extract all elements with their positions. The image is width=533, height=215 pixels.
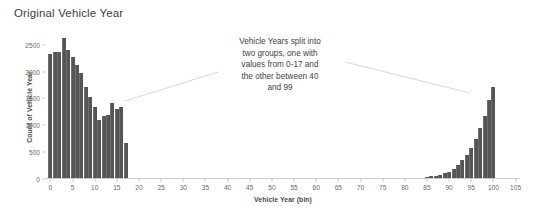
x-tick-label: 35 <box>202 184 209 191</box>
x-tick-mark <box>471 179 472 182</box>
x-tick-label: 85 <box>423 184 430 191</box>
y-tick-label: 1500 <box>25 95 40 102</box>
x-tick-mark <box>360 179 361 182</box>
x-tick-mark <box>515 179 516 182</box>
x-tick-mark <box>161 179 162 182</box>
x-tick-label: 100 <box>488 184 499 191</box>
y-tick-mark <box>42 179 45 180</box>
x-tick-mark <box>493 179 494 182</box>
x-tick-mark <box>294 179 295 182</box>
x-tick-label: 30 <box>180 184 187 191</box>
y-tick-mark <box>42 125 45 126</box>
histogram-chart: Original Vehicle Year Count of Vehicle Y… <box>0 0 533 215</box>
x-tick-label: 105 <box>510 184 521 191</box>
x-tick-mark <box>72 179 73 182</box>
x-axis: Vehicle Year (bin) 051015202530354045505… <box>46 179 520 215</box>
x-tick-label: 75 <box>379 184 386 191</box>
y-tick-label: 500 <box>29 149 40 156</box>
annotation-line: two groups, one with <box>214 48 346 60</box>
x-axis-title: Vehicle Year (bin) <box>46 196 520 203</box>
y-tick-label: 2000 <box>25 68 40 75</box>
x-tick-label: 60 <box>313 184 320 191</box>
x-tick-mark <box>249 179 250 182</box>
x-tick-label: 40 <box>224 184 231 191</box>
x-tick-label: 70 <box>357 184 364 191</box>
annotation-line: Vehicle Years split into <box>214 36 346 48</box>
x-tick-label: 15 <box>113 184 120 191</box>
x-tick-label: 10 <box>91 184 98 191</box>
x-tick-label: 80 <box>401 184 408 191</box>
x-tick-label: 0 <box>49 184 53 191</box>
annotation-line: values from 0-17 and <box>214 59 346 71</box>
x-tick-mark <box>426 179 427 182</box>
x-tick-label: 65 <box>335 184 342 191</box>
x-tick-mark <box>139 179 140 182</box>
y-tick-label: 1000 <box>25 122 40 129</box>
x-tick-mark <box>94 179 95 182</box>
x-tick-mark <box>116 179 117 182</box>
x-tick-label: 20 <box>135 184 142 191</box>
y-tick-mark <box>42 98 45 99</box>
x-tick-label: 5 <box>71 184 75 191</box>
x-tick-mark <box>50 179 51 182</box>
annotation-text: Vehicle Years split intotwo groups, one … <box>214 36 346 94</box>
x-tick-mark <box>271 179 272 182</box>
y-tick-mark <box>42 152 45 153</box>
chart-title: Original Vehicle Year <box>14 7 123 19</box>
annotation-line: the other between 40 <box>214 71 346 83</box>
x-tick-label: 45 <box>246 184 253 191</box>
x-tick-mark <box>449 179 450 182</box>
x-tick-mark <box>205 179 206 182</box>
x-tick-mark <box>382 179 383 182</box>
x-tick-mark <box>316 179 317 182</box>
y-tick-label: 0 <box>36 176 40 183</box>
histogram-bar <box>491 87 495 178</box>
y-axis: Count of Vehicle Year 050010001500200025… <box>0 34 46 180</box>
y-tick-mark <box>42 44 45 45</box>
x-tick-mark <box>338 179 339 182</box>
x-tick-mark <box>227 179 228 182</box>
x-tick-label: 95 <box>468 184 475 191</box>
x-tick-mark <box>183 179 184 182</box>
y-tick-label: 2500 <box>25 41 40 48</box>
x-tick-label: 55 <box>290 184 297 191</box>
histogram-bar <box>124 143 128 178</box>
x-tick-label: 25 <box>158 184 165 191</box>
y-tick-mark <box>42 71 45 72</box>
x-tick-label: 90 <box>445 184 452 191</box>
x-tick-mark <box>404 179 405 182</box>
annotation-line: and 99 <box>214 82 346 94</box>
x-tick-label: 50 <box>268 184 275 191</box>
